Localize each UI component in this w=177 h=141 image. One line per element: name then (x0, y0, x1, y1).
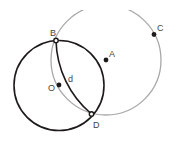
label-o: O (48, 83, 55, 93)
diagram-svg: B D O A C d (0, 0, 177, 141)
geometry-diagram: B D O A C d (0, 0, 177, 141)
label-d-arc: d (68, 74, 73, 84)
label-c: C (157, 23, 164, 33)
label-b: B (50, 28, 56, 38)
point-d-marker (89, 112, 93, 116)
point-a-marker (104, 58, 109, 63)
point-c-marker (152, 32, 157, 37)
point-b-marker (54, 38, 58, 42)
label-a: A (109, 49, 115, 59)
arc-d (56, 41, 92, 115)
point-o-marker (57, 83, 62, 88)
label-d-point: D (93, 120, 100, 130)
